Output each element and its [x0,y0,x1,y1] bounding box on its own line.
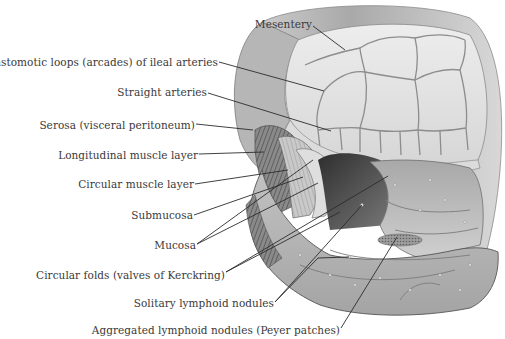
label-submucosa: Submucosa [131,209,193,221]
label-anastomotic-loops: Anastomotic loops (arcades) of ileal art… [0,56,218,68]
anatomy-figure: Mesentery Anastomotic loops (arcades) of… [0,0,505,339]
label-peyer-patches: Aggregated lymphoid nodules (Peyer patch… [92,324,340,336]
intestine-illustration [0,0,505,339]
label-straight-arteries: Straight arteries [117,86,207,98]
label-longitudinal-muscle: Longitudinal muscle layer [58,149,198,161]
label-circular-folds: Circular folds (valves of Kerckring) [36,269,225,281]
label-mesentery: Mesentery [255,18,312,30]
label-circular-muscle: Circular muscle layer [78,178,194,190]
label-serosa: Serosa (visceral peritoneum) [39,119,195,131]
label-solitary-nodules: Solitary lymphoid nodules [134,297,274,309]
label-mucosa: Mucosa [154,239,196,251]
peyer-patch [378,234,422,246]
